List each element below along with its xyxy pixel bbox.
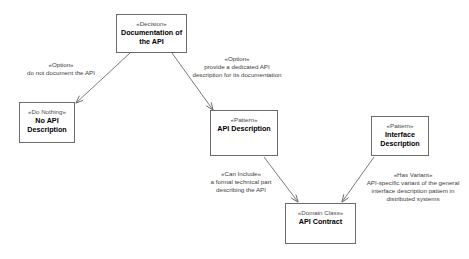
node-stereotype: «Do Nothing» bbox=[28, 108, 66, 116]
edge-label-can-include: «Can Include» a formal technical part de… bbox=[196, 170, 286, 194]
node-api-description[interactable]: «Pattern» API Description bbox=[210, 110, 278, 156]
edge-label-text: provide a dedicated API description for … bbox=[190, 63, 284, 79]
edge-label-text: do not document the API bbox=[13, 69, 109, 77]
edge-label-provide-description: «Option» provide a dedicated API descrip… bbox=[190, 55, 284, 79]
node-label: API Description bbox=[214, 124, 274, 133]
edge-label-text: a formal technical part describing the A… bbox=[196, 178, 286, 194]
node-label: No API Description bbox=[20, 116, 74, 134]
diagram-canvas: «Decision» Documentation of the API «Do … bbox=[0, 0, 469, 259]
node-stereotype: «Pattern» bbox=[387, 122, 414, 130]
edge-label-stereotype: «Has Variant» bbox=[359, 171, 467, 179]
node-stereotype: «Domain Class» bbox=[298, 209, 343, 217]
edge-label-stereotype: «Option» bbox=[13, 61, 109, 69]
edge-label-text: API-specific variant of the general inte… bbox=[359, 179, 467, 203]
node-stereotype: «Decision» bbox=[136, 20, 167, 28]
node-label: Documentation of the API bbox=[117, 28, 186, 46]
node-stereotype: «Pattern» bbox=[231, 116, 258, 124]
edge-label-stereotype: «Can Include» bbox=[196, 170, 286, 178]
node-decision[interactable]: «Decision» Documentation of the API bbox=[116, 14, 187, 53]
node-api-contract[interactable]: «Domain Class» API Contract bbox=[285, 203, 356, 244]
edge-label-do-not-document: «Option» do not document the API bbox=[13, 61, 109, 77]
node-label: API Contract bbox=[296, 217, 346, 226]
edge-label-stereotype: «Option» bbox=[190, 55, 284, 63]
node-interface-description[interactable]: «Pattern» Interface Description bbox=[371, 116, 429, 156]
node-do-nothing[interactable]: «Do Nothing» No API Description bbox=[19, 102, 75, 143]
node-label: Interface Description bbox=[372, 130, 428, 148]
edge-label-has-variant: «Has Variant» API-specific variant of th… bbox=[359, 171, 467, 203]
